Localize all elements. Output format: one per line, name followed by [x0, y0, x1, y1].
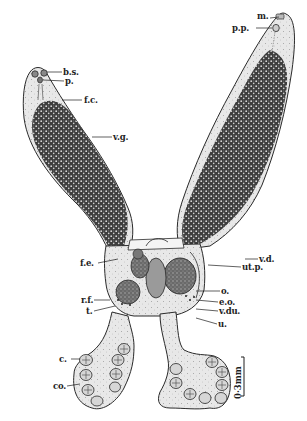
right-anterior-lobe	[177, 13, 294, 250]
label-ut-p: ut.p.	[242, 263, 263, 272]
label-r-f: r.f.	[81, 296, 93, 305]
label-vitelline-duct: v.du.	[219, 307, 240, 316]
testis	[116, 280, 140, 304]
label-ovary: o.	[221, 287, 229, 296]
buccal-sucker-right	[41, 70, 47, 76]
label-uterus: u.	[218, 320, 227, 329]
scale-bar-label: 0·3mm	[233, 366, 243, 399]
label-f-e: f.e.	[80, 259, 94, 268]
ovary	[164, 258, 196, 294]
label-co: co.	[53, 382, 66, 391]
label-testis: t.	[86, 307, 93, 316]
buccal-sucker-left	[32, 71, 38, 77]
label-mouth: m.	[257, 12, 269, 21]
label-clamp: c.	[59, 355, 67, 364]
label-f-c: f.c.	[84, 96, 98, 105]
worm-illustration	[0, 0, 307, 421]
central-body	[105, 238, 205, 316]
left-haptor-lobe	[74, 312, 134, 409]
label-vitelline-glands: v.g.	[113, 133, 128, 142]
pharynx	[38, 77, 43, 83]
pharynx-right	[273, 24, 280, 31]
left-anterior-lobe	[23, 68, 133, 251]
label-pharynx: p.	[65, 77, 74, 86]
label-p-p: p.p.	[232, 24, 249, 33]
mouth	[276, 14, 284, 19]
figure-canvas: b.s. p. f.c. v.g. f.e. r.f. t. c. co. m.…	[0, 0, 307, 421]
